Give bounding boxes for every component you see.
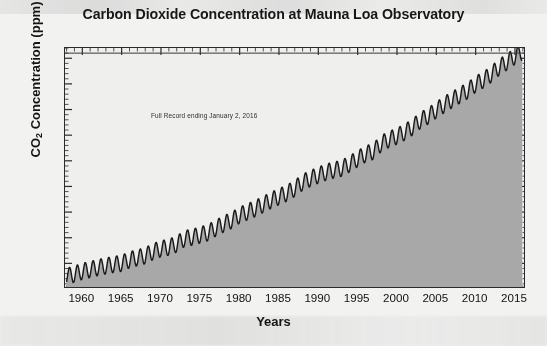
y-axis-label-co: CO <box>28 138 43 158</box>
x-axis-label: Years <box>0 314 547 329</box>
plot-area: Full Record ending January 2, 2016 SCRIP… <box>64 47 525 288</box>
record-annotation: Full Record ending January 2, 2016 <box>151 112 257 119</box>
x-tick-2015: 2015 <box>491 291 537 304</box>
y-axis-label-subscript: 2 <box>34 133 44 138</box>
co2-area-fill <box>67 48 523 288</box>
y-axis-label-rest: Concentration (ppm) <box>28 2 43 133</box>
y-axis-label: CO2 Concentration (ppm) <box>28 0 43 185</box>
chart-title: Carbon Dioxide Concentration at Mauna Lo… <box>0 6 547 22</box>
plot-svg <box>65 48 525 288</box>
